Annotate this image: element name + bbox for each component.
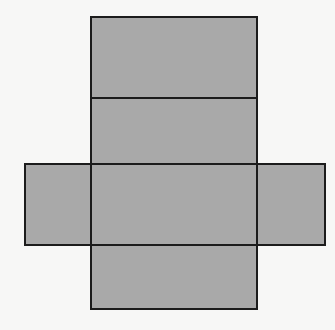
upper-face — [90, 97, 258, 165]
top-flap — [90, 16, 258, 99]
bottom-face — [90, 244, 258, 310]
left-flap — [24, 163, 92, 246]
prism-net-diagram — [0, 0, 335, 330]
center-face — [90, 163, 258, 246]
right-flap — [256, 163, 326, 246]
